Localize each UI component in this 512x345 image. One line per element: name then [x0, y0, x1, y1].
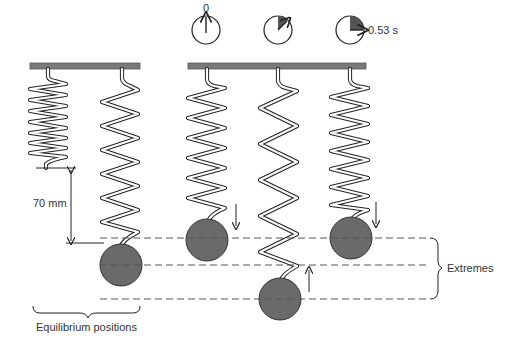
equilibrium-brace [33, 306, 140, 318]
spring-diagram: 70 mm Extremes Equilibrium positions 0 [0, 0, 512, 345]
unloaded-spring [30, 69, 66, 168]
equilibrium-spring [102, 69, 138, 248]
extremes-brace [430, 238, 442, 299]
spring-3 [331, 69, 368, 220]
clock-0-label: 0 [203, 2, 209, 14]
clock-2: 0.53 s [336, 16, 398, 44]
mass-1 [186, 219, 228, 261]
equilibrium-label: Equilibrium positions [36, 321, 137, 333]
extension-label: 70 mm [33, 197, 67, 209]
clock-0: 0 [192, 2, 220, 44]
spring-2 [260, 69, 297, 282]
spring-1 [188, 69, 225, 222]
extremes-label: Extremes [447, 262, 494, 274]
clock-1 [264, 16, 292, 44]
clock-2-label: 0.53 s [368, 24, 398, 36]
